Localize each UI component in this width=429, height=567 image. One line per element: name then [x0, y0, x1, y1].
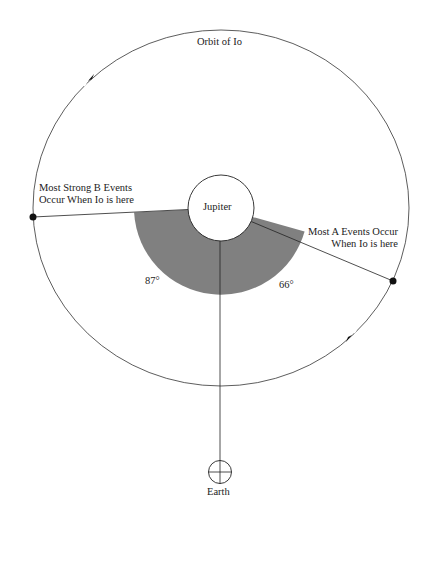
a-events-label-line2: When Io is here [331, 238, 398, 250]
b-events-label-line1: Most Strong B Events [39, 182, 132, 194]
angle-b-label: 87° [145, 275, 160, 287]
io-orbit-diagram [0, 0, 429, 567]
io-position-b-dot [30, 214, 37, 221]
earth-label: Earth [207, 486, 230, 498]
angle-a-label: 66° [279, 279, 294, 291]
orbit-arrow-icon [346, 335, 352, 342]
io-position-a-dot [390, 278, 397, 285]
earth-icon [209, 461, 232, 484]
jupiter-label: Jupiter [203, 201, 232, 213]
b-events-label-line2: Occur When Io is here [39, 194, 134, 206]
a-events-label-line1: Most A Events Occur [308, 226, 398, 238]
orbit-label: Orbit of Io [197, 36, 242, 48]
